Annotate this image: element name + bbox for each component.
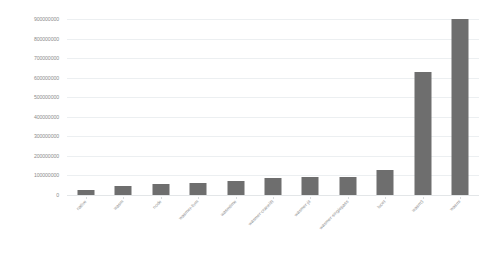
bar[interactable] [377, 170, 394, 195]
x-axis-tick-label-text: wasmer-llvm [178, 199, 200, 221]
y-axis-tick-label: 200000000 [34, 153, 59, 159]
bar-slot [404, 19, 441, 195]
bar[interactable] [452, 19, 469, 195]
bar-slot [254, 19, 291, 195]
y-axis-tick-label: 300000000 [34, 133, 59, 139]
x-axis-tick: wasm [104, 197, 141, 254]
x-axis-tick: lucet [367, 197, 404, 254]
bar-slot [367, 19, 404, 195]
y-axis-tick-label: 700000000 [34, 55, 59, 61]
bar-series [67, 19, 479, 195]
y-axis-tick-label: 400000000 [34, 114, 59, 120]
bar-slot [292, 19, 329, 195]
y-axis-tick-label: 100000000 [34, 172, 59, 178]
x-axis-tick-label-text: wasmtime [219, 199, 237, 217]
x-axis-tick-label-text: wasmi [449, 199, 462, 212]
y-axis-tick-label: 500000000 [34, 94, 59, 100]
bar-slot [104, 19, 141, 195]
x-axis-tick-label-text: node [151, 199, 162, 210]
x-axis-tick: wasmer-singlepass [329, 197, 366, 254]
x-axis-tick: wasmer-cranelift [254, 197, 291, 254]
x-axis-tick: wasm3 [404, 197, 441, 254]
y-axis-labels: 0100000000200000000300000000400000000500… [0, 0, 64, 254]
bar-slot [329, 19, 366, 195]
bar-slot [67, 19, 104, 195]
x-axis-tick: node [142, 197, 179, 254]
bar-slot [142, 19, 179, 195]
bar[interactable] [414, 72, 431, 195]
bar-slot [217, 19, 254, 195]
x-axis-tick-label-text: wasm [113, 199, 125, 211]
x-axis-tick: wasmtime [217, 197, 254, 254]
y-axis-tick-label: 600000000 [34, 75, 59, 81]
x-axis-tick: wasmer-llvm [179, 197, 216, 254]
bar-slot [442, 19, 479, 195]
bar-slot [179, 19, 216, 195]
y-axis-tick-label: 0 [56, 192, 59, 198]
x-axis-labels: nativewasmnodewasmer-llvmwasmtimewasmer-… [67, 197, 479, 254]
x-axis-tick: wasmi [442, 197, 479, 254]
x-axis-tick-label-text: wasmer-jit [294, 199, 312, 217]
x-axis-tick-label-text: lucet [376, 199, 386, 209]
bar-chart: 0100000000200000000300000000400000000500… [0, 0, 489, 254]
x-axis-tick-label-text: wasm3 [410, 199, 424, 213]
x-axis-tick-label-text: native [75, 199, 87, 211]
y-axis-tick-label: 800000000 [34, 36, 59, 42]
y-axis-tick-label: 900000000 [34, 16, 59, 22]
x-axis-tick: native [67, 197, 104, 254]
